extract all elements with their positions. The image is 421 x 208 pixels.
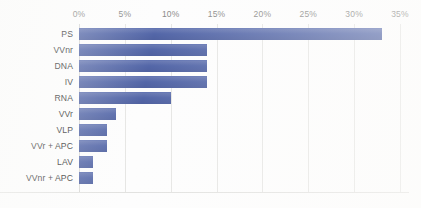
bar-row: IV (0, 74, 421, 90)
bar (79, 44, 207, 56)
x-tick-label: 15% (208, 9, 226, 19)
bar-track (79, 140, 400, 152)
bar (79, 76, 207, 88)
x-axis-tick-labels: 0%5%10%15%20%25%30%35% (0, 9, 421, 23)
bar-row: DNA (0, 58, 421, 74)
bar (79, 60, 207, 72)
bar-track (79, 92, 400, 104)
bar-row: PS (0, 26, 421, 42)
x-tick-label: 25% (299, 9, 317, 19)
bar-track (79, 156, 400, 168)
category-label: DNA (0, 58, 73, 74)
category-label: RNA (0, 90, 73, 106)
bar-track (79, 60, 400, 72)
bar-track (79, 172, 400, 184)
bar-row: VVnr + APC (0, 170, 421, 186)
category-label: VVr + APC (0, 138, 73, 154)
bar-row: RNA (0, 90, 421, 106)
category-label: VVnr + APC (0, 170, 73, 186)
bar (79, 108, 116, 120)
bar (79, 172, 93, 184)
category-label: VVnr (0, 42, 73, 58)
x-tick-label: 5% (119, 9, 132, 19)
x-tick-label: 35% (391, 9, 409, 19)
bar (79, 92, 171, 104)
chart-baseline (0, 192, 409, 193)
bar-row: VVr + APC (0, 138, 421, 154)
x-tick-label: 20% (254, 9, 272, 19)
bar-rows: PSVVnrDNAIVRNAVVrVLPVVr + APCLAVVVnr + A… (0, 26, 421, 186)
bar-track (79, 76, 400, 88)
category-label: LAV (0, 154, 73, 170)
bar-row: VLP (0, 122, 421, 138)
category-label: VVr (0, 106, 73, 122)
bar-track (79, 44, 400, 56)
x-tick-label: 30% (345, 9, 363, 19)
x-tick-label: 0% (73, 9, 86, 19)
bar (79, 28, 382, 40)
bar-track (79, 28, 400, 40)
category-label: IV (0, 74, 73, 90)
x-tick-label: 10% (162, 9, 180, 19)
bar-row: LAV (0, 154, 421, 170)
bar-row: VVr (0, 106, 421, 122)
bar (79, 140, 107, 152)
bar-chart-figure: 0%5%10%15%20%25%30%35% PSVVnrDNAIVRNAVVr… (0, 0, 421, 208)
category-label: PS (0, 26, 73, 42)
bar-row: VVnr (0, 42, 421, 58)
plot-area: 0%5%10%15%20%25%30%35% PSVVnrDNAIVRNAVVr… (0, 0, 421, 208)
bar (79, 124, 107, 136)
bar-track (79, 108, 400, 120)
category-label: VLP (0, 122, 73, 138)
bar-track (79, 124, 400, 136)
bar (79, 156, 93, 168)
